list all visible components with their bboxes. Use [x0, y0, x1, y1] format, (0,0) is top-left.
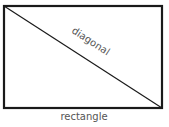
- rectangle-label: rectangle: [60, 111, 107, 122]
- diagram-canvas: diagonal rectangle: [0, 0, 169, 127]
- diagonal-line: [4, 6, 162, 108]
